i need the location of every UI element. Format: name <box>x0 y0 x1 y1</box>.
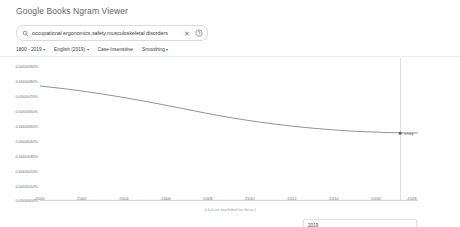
x-tick: 2004 <box>119 196 128 201</box>
chevron-down-icon: ▾ <box>166 47 168 52</box>
chevron-down-icon: ▾ <box>43 47 45 52</box>
control-corpus[interactable]: English (2019) ▾ <box>54 47 88 52</box>
y-tick: 0.0000070% <box>15 94 38 99</box>
header-divider <box>0 56 460 57</box>
y-tick: 0.0000020% <box>15 169 38 174</box>
y-axis: 0.0000090% 0.0000080% 0.0000070% 0.00000… <box>0 58 40 206</box>
x-tick: 2008 <box>203 196 212 201</box>
page-title: Google Books Ngram Viewer <box>16 6 128 16</box>
control-corpus-label: English (2019) <box>54 47 85 52</box>
series-line-occupational-ergonomics <box>40 86 418 133</box>
x-tick: 2014 <box>329 196 338 201</box>
ngram-chart: 0.0000090% 0.0000080% 0.0000070% 0.00000… <box>0 58 460 206</box>
control-smoothing[interactable]: Smoothing ▾ <box>142 47 168 52</box>
control-year-range-label: 1800 - 2019 <box>16 47 42 52</box>
y-tick: 0.0000030% <box>15 154 38 159</box>
search-bar[interactable]: occupational ergonomics,safety,musculosk… <box>16 25 208 41</box>
chart-controls: 1800 - 2019 ▾ English (2019) ▾ Case-Inse… <box>16 45 168 54</box>
x-tick: 2018 <box>407 196 416 201</box>
control-case-insensitive-label: Case-Insensitive <box>98 47 133 52</box>
series-endpoint-dot[interactable] <box>399 132 402 135</box>
hover-cursor-line <box>400 58 401 200</box>
tooltip-year: 2019 <box>308 223 412 227</box>
x-tick: 2006 <box>161 196 170 201</box>
series-lines <box>40 64 418 200</box>
help-circle-icon[interactable] <box>193 27 205 39</box>
y-tick: 0.0000010% <box>15 184 38 189</box>
x-tick: 2010 <box>245 196 254 201</box>
x-axis-caption: (click on line/label for focus) <box>0 207 460 212</box>
x-tick: 2012 <box>287 196 296 201</box>
control-case-insensitive[interactable]: Case-Insensitive <box>98 47 133 52</box>
hover-tooltip: 2019 occupational ergonomics 0.000000137… <box>303 219 417 227</box>
x-tick: 2016 <box>371 196 380 201</box>
plot-area <box>40 64 418 200</box>
ngram-viewer-app: Google Books Ngram Viewer occupational e… <box>0 0 460 227</box>
control-smoothing-label: Smoothing <box>142 47 165 52</box>
y-tick: 0.0000050% <box>15 124 38 129</box>
y-tick: 0.0000090% <box>15 64 38 69</box>
series-endpoint-label: entity <box>404 131 414 136</box>
y-tick: 0.0000060% <box>15 109 38 114</box>
search-input[interactable]: occupational ergonomics,safety,musculosk… <box>32 30 182 37</box>
close-icon[interactable]: ✕ <box>182 28 192 38</box>
control-year-range[interactable]: 1800 - 2019 ▾ <box>16 47 45 52</box>
chevron-down-icon: ▾ <box>87 47 89 52</box>
y-tick: 0.0000080% <box>15 79 38 84</box>
x-tick: 2000 <box>35 196 44 201</box>
search-icon <box>20 28 31 39</box>
y-tick: 0.0000040% <box>15 139 38 144</box>
x-tick: 2002 <box>77 196 86 201</box>
